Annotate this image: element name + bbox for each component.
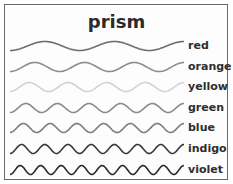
wave-yellow [10,83,184,92]
wave-orange [10,63,184,72]
wave-violet [10,166,184,175]
wave-indigo [10,145,184,154]
label-red: red [188,39,209,52]
label-yellow: yellow [188,80,228,93]
wave-red [10,42,184,51]
wave-green [10,104,184,113]
label-orange: orange [188,60,232,73]
label-green: green [188,101,224,114]
label-blue: blue [188,121,215,134]
label-indigo: indigo [188,142,227,155]
wave-blue [10,124,184,133]
label-violet: violet [188,163,223,176]
